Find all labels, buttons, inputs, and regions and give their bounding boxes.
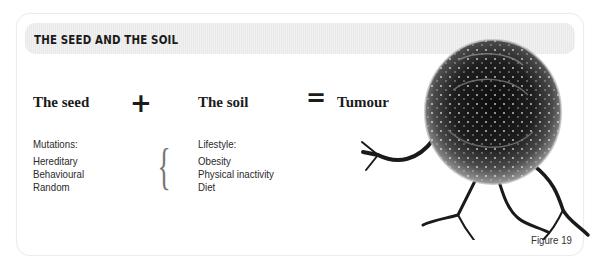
- list-item: Random: [33, 181, 84, 194]
- tumour-cell-illustration: [358, 20, 598, 240]
- lifestyle-list: Obesity Physical inactivity Diet: [198, 155, 274, 194]
- soil-label: The soil: [198, 94, 248, 111]
- page-title: THE SEED AND THE SOIL: [34, 32, 178, 47]
- list-item: Diet: [198, 181, 274, 194]
- plus-icon: +: [130, 88, 152, 118]
- mutations-heading: Mutations:: [33, 138, 78, 151]
- seed-label: The seed: [33, 94, 89, 111]
- lifestyle-heading: Lifestyle:: [198, 138, 236, 151]
- list-item: Hereditary: [33, 155, 84, 168]
- mutations-list: Hereditary Behavioural Random: [33, 155, 84, 194]
- list-item: Obesity: [198, 155, 274, 168]
- figure-label: Figure 19: [531, 234, 572, 246]
- curly-brace-icon: {: [157, 141, 170, 191]
- list-item: Physical inactivity: [198, 168, 274, 181]
- equals-icon: =: [306, 84, 326, 112]
- list-item: Behavioural: [33, 168, 84, 181]
